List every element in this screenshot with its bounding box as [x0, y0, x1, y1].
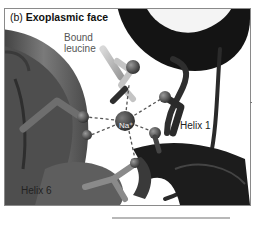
label-sodium-ion: Na⁺ — [119, 121, 133, 130]
margin-tick-mark — [250, 102, 252, 103]
label-bound-leucine-line1: Bound — [64, 32, 96, 43]
figure-panel: (b) Exoplasmic face Bound leucine Helix … — [4, 8, 251, 206]
label-helix-1: Helix 1 — [180, 120, 211, 131]
bottom-divider — [112, 217, 230, 219]
panel-title: Exoplasmic face — [26, 11, 108, 23]
helix1-sidechain — [149, 91, 181, 151]
figure-title: (b) Exoplasmic face — [9, 11, 111, 24]
label-helix-6: Helix 6 — [21, 185, 52, 196]
helix-ribbon-lower-right — [131, 143, 250, 205]
molecular-structure-illustration — [5, 9, 250, 205]
panel-letter: (b) — [10, 11, 23, 23]
label-bound-leucine-line2: leucine — [64, 43, 96, 54]
bound-leucine-molecule — [103, 49, 140, 101]
label-bound-leucine: Bound leucine — [64, 32, 96, 54]
